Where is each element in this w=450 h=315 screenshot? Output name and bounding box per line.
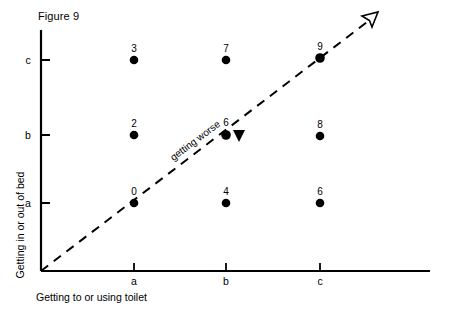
data-point (315, 53, 325, 63)
point-value-label: 3 (125, 43, 143, 54)
y-tick-label-c: c (21, 54, 35, 66)
data-point (221, 130, 231, 140)
point-value-label: 6 (311, 186, 329, 197)
direction-triangle-marker (233, 130, 245, 142)
data-point (316, 132, 325, 141)
data-point (316, 199, 325, 208)
data-point (222, 56, 231, 65)
point-value-label: 4 (217, 186, 235, 197)
x-tick-label-c: c (313, 275, 327, 287)
point-value-label: 9 (311, 41, 329, 52)
x-tick-label-b: b (219, 275, 233, 287)
x-axis-title: Getting to or using toilet (36, 291, 147, 303)
point-value-label: 8 (311, 119, 329, 130)
data-point (130, 199, 139, 208)
data-point (222, 199, 231, 208)
point-value-label: 0 (125, 186, 143, 197)
y-axis-title: Getting in or out of bed (14, 160, 26, 290)
figure-container: Figure 9 c b a a b c (0, 0, 450, 315)
point-value-label: 7 (217, 43, 235, 54)
x-tick-label-a: a (127, 275, 141, 287)
point-value-label: 2 (125, 118, 143, 129)
y-tick-label-b: b (21, 129, 35, 141)
data-point (130, 131, 139, 140)
data-point (130, 56, 139, 65)
